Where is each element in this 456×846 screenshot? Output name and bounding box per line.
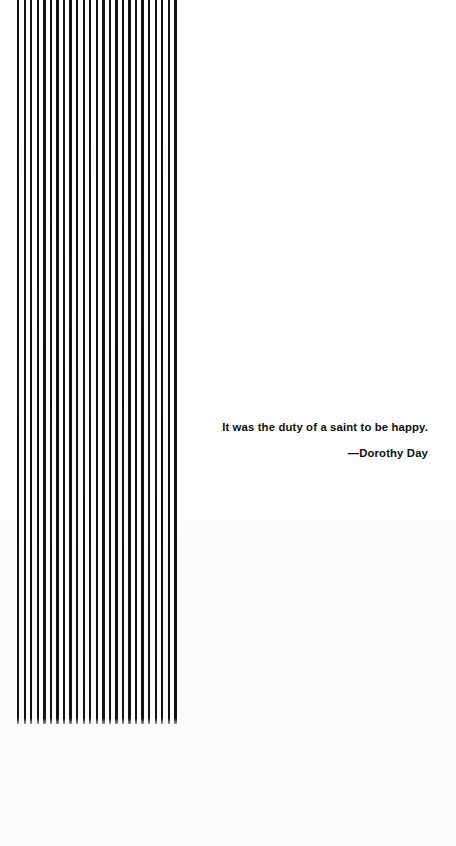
stripe-rule bbox=[24, 0, 26, 724]
epigraph-quote-text: It was the duty of a saint to be happy. bbox=[196, 420, 428, 435]
stripe-rule bbox=[135, 0, 137, 724]
stripe-rule bbox=[174, 0, 176, 724]
stripe-rule bbox=[128, 0, 130, 724]
stripe-rule bbox=[43, 0, 45, 724]
stripe-rule bbox=[50, 0, 52, 724]
stripe-rule bbox=[89, 0, 91, 724]
epigraph-block: It was the duty of a saint to be happy. … bbox=[196, 420, 428, 461]
stripe-rule bbox=[96, 0, 98, 724]
stripe-rule bbox=[69, 0, 71, 724]
stripe-rule bbox=[168, 0, 170, 724]
stripe-rule bbox=[56, 0, 58, 724]
vertical-stripe-ornament bbox=[17, 0, 180, 724]
epigraph-attribution: —Dorothy Day bbox=[196, 446, 428, 461]
stripe-rule bbox=[76, 0, 78, 724]
stripe-rule bbox=[63, 0, 65, 724]
stripe-rule bbox=[115, 0, 117, 724]
stripe-rule bbox=[155, 0, 157, 724]
stripe-rule bbox=[122, 0, 124, 724]
stripe-rule bbox=[30, 0, 32, 724]
stripe-rule bbox=[37, 0, 39, 724]
stripe-rule bbox=[17, 0, 19, 724]
stripe-rule bbox=[148, 0, 150, 724]
stripe-rule bbox=[102, 0, 104, 724]
stripe-rule bbox=[109, 0, 111, 724]
stripe-rule bbox=[141, 0, 143, 724]
stripe-rule bbox=[83, 0, 85, 724]
book-page: It was the duty of a saint to be happy. … bbox=[0, 0, 456, 846]
stripe-rule bbox=[161, 0, 163, 724]
